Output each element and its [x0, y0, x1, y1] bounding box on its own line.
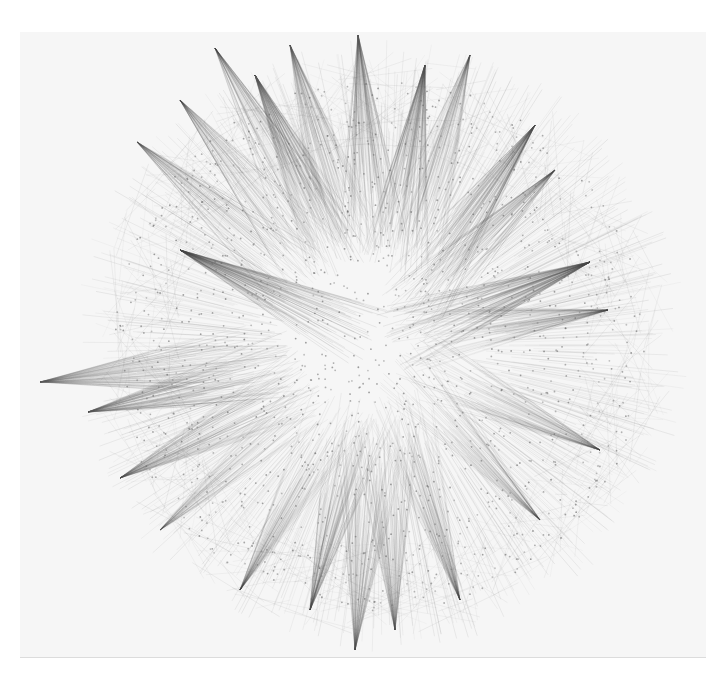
network-graph-canvas: [0, 0, 726, 682]
edges: [40, 35, 686, 652]
